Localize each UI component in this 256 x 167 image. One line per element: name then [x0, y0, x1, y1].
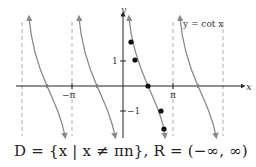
tick-label-neg-one: −1 — [127, 106, 140, 116]
tick-label-one: 1 — [112, 56, 118, 66]
x-axis-label: x — [246, 81, 252, 92]
point-pi-6 — [128, 39, 133, 44]
point-3pi-4 — [158, 108, 163, 113]
tick-label-pi: π — [170, 90, 176, 100]
point-pi-2 — [145, 83, 150, 88]
cot-branch-3 — [129, 18, 165, 136]
cot-branch-4 — [180, 18, 216, 136]
tick-label-neg-pi: −π — [62, 90, 76, 100]
cot-branch-1 — [29, 18, 65, 136]
point-pi-4 — [132, 57, 137, 62]
domain-range-caption: D = {x | x ≠ πn}, R = (−∞, ∞) — [14, 142, 248, 160]
function-label: y = cot x — [182, 19, 223, 29]
point-5pi-6 — [161, 126, 166, 131]
y-axis-label: y — [120, 5, 127, 15]
cot-branch-2 — [79, 18, 115, 136]
cotangent-graph: y x −π π 1 −1 y = cot x — [0, 0, 256, 140]
